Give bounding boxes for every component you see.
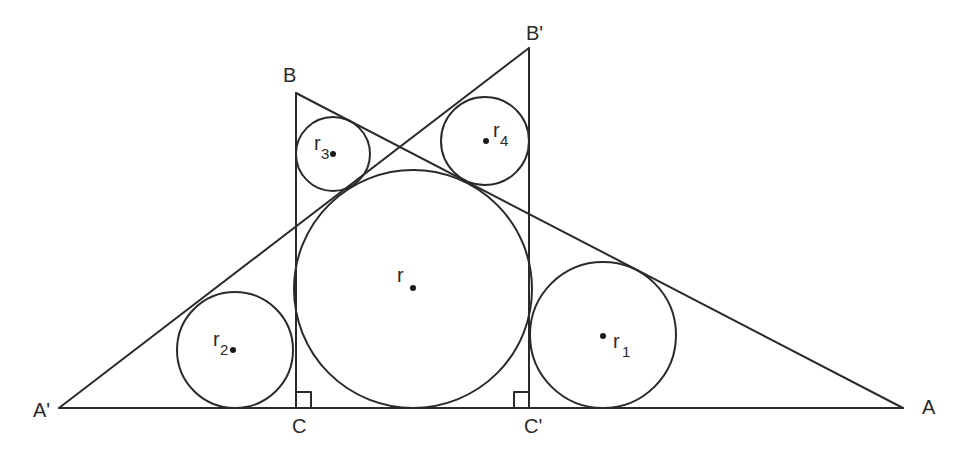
vertex-label-a-prime: A' [33, 399, 50, 421]
vertex-label-a: A [922, 396, 936, 418]
label-r3: r [314, 132, 321, 154]
center-dot-r [410, 285, 416, 291]
vertex-label-b-prime: B' [526, 22, 543, 44]
center-dot-r2 [230, 347, 236, 353]
vertex-label-b: B [283, 64, 296, 86]
right-angle-marker-c-prime [514, 392, 529, 408]
center-dot-r4 [483, 138, 489, 144]
hypotenuse-ba [296, 93, 903, 408]
label-r4: r [493, 119, 500, 141]
geometry-diagram: r r 1 r 2 r 3 r 4 A' A B B' C C' [0, 0, 963, 453]
center-dot-r1 [600, 333, 606, 339]
vertex-label-c-prime: C' [524, 415, 542, 437]
right-angle-marker-c [296, 392, 311, 408]
vertex-label-c: C [292, 415, 306, 437]
hypotenuse-a-prime-b-prime [59, 48, 529, 408]
label-r2: r [213, 328, 220, 350]
label-r: r [397, 264, 404, 286]
label-r1: r [613, 330, 620, 352]
label-r1-subscript: 1 [622, 343, 630, 360]
label-r2-subscript: 2 [220, 341, 228, 358]
center-dot-r3 [330, 151, 336, 157]
label-r3-subscript: 3 [321, 145, 329, 162]
label-r4-subscript: 4 [500, 132, 508, 149]
